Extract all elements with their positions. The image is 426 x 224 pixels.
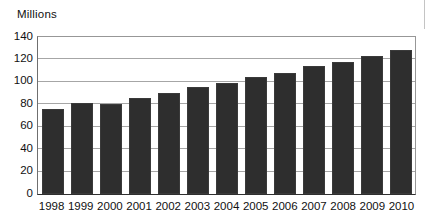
x-tick-label-2010: 2010 — [387, 200, 416, 212]
bar-2001 — [129, 98, 151, 194]
bar-2009 — [361, 56, 383, 194]
bar-slot-1999 — [67, 103, 96, 194]
x-tick-label-2007: 2007 — [299, 200, 328, 212]
x-tick-label-2006: 2006 — [270, 200, 299, 212]
y-axis-title: Millions — [17, 8, 57, 20]
y-tick-label-100: 100 — [0, 74, 33, 87]
bar-slot-2001 — [125, 98, 154, 194]
bar-2004 — [216, 83, 238, 194]
bar-1998 — [42, 109, 64, 194]
bar-2000 — [100, 104, 122, 194]
y-tick-label-0: 0 — [0, 187, 33, 200]
bar-slot-2010 — [386, 50, 415, 194]
bars-container — [38, 37, 415, 194]
x-tick-label-2009: 2009 — [358, 200, 387, 212]
y-tick-label-60: 60 — [0, 119, 33, 132]
bar-2005 — [245, 77, 267, 194]
x-tick-label-2003: 2003 — [183, 200, 212, 212]
y-tick-label-40: 40 — [0, 142, 33, 155]
x-tick-label-1998: 1998 — [37, 200, 66, 212]
plot-area — [37, 36, 416, 195]
x-tick-label-2002: 2002 — [154, 200, 183, 212]
y-tick-label-120: 120 — [0, 52, 33, 65]
bar-chart-figure: Millions 140120100806040200 199819992000… — [0, 0, 426, 224]
bar-2008 — [332, 62, 354, 194]
scan-edge-artifact — [424, 0, 425, 29]
y-tick-label-20: 20 — [0, 164, 33, 177]
x-tick-label-2004: 2004 — [212, 200, 241, 212]
bar-slot-2003 — [183, 87, 212, 194]
x-tick-label-2005: 2005 — [241, 200, 270, 212]
x-axis-tick-labels: 1998199920002001200220032004200520062007… — [37, 200, 416, 212]
x-tick-label-2008: 2008 — [329, 200, 358, 212]
x-tick-label-2001: 2001 — [124, 200, 153, 212]
bar-slot-1998 — [38, 109, 67, 194]
bar-2003 — [187, 87, 209, 194]
bar-slot-2005 — [241, 77, 270, 194]
bar-slot-2006 — [270, 73, 299, 194]
bar-slot-2004 — [212, 83, 241, 194]
bar-2006 — [274, 73, 296, 194]
bar-slot-2007 — [299, 66, 328, 194]
bar-1999 — [71, 103, 93, 194]
bar-slot-2008 — [328, 62, 357, 194]
x-tick-label-1999: 1999 — [66, 200, 95, 212]
bar-2010 — [390, 50, 412, 194]
y-tick-label-140: 140 — [0, 30, 33, 43]
bar-slot-2009 — [357, 56, 386, 194]
bar-2007 — [303, 66, 325, 194]
y-tick-label-80: 80 — [0, 97, 33, 110]
bar-slot-2000 — [96, 104, 125, 194]
bar-2002 — [158, 93, 180, 194]
bar-slot-2002 — [154, 93, 183, 194]
x-tick-label-2000: 2000 — [95, 200, 124, 212]
